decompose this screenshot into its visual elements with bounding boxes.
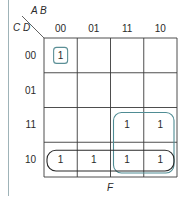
kmap-cell-value: 1 (58, 154, 64, 165)
kmap-cell-value: 1 (124, 119, 130, 130)
kmap-cell-value: 1 (158, 119, 164, 130)
kmap-cell-value: 1 (91, 154, 97, 165)
kmap-cell-value: 1 (58, 50, 64, 61)
function-label: F (107, 182, 114, 193)
kmap-cell-value: 1 (124, 154, 130, 165)
column-label: 10 (155, 23, 167, 34)
row-label: 10 (25, 154, 37, 165)
column-label: 01 (88, 23, 100, 34)
karnaugh-map: A B C D 00011110 00011110 1111111 F (0, 0, 187, 201)
kmap-cell-value: 1 (158, 154, 164, 165)
column-label: 11 (122, 23, 133, 34)
row-labels: 00011110 (25, 50, 37, 165)
row-label: 01 (25, 85, 37, 96)
col-variables-label: A B (30, 5, 47, 16)
row-label: 11 (26, 119, 37, 130)
column-label: 00 (55, 23, 67, 34)
column-labels: 00011110 (55, 23, 166, 34)
row-variables-label: C D (13, 22, 30, 33)
row-label: 00 (25, 50, 37, 61)
